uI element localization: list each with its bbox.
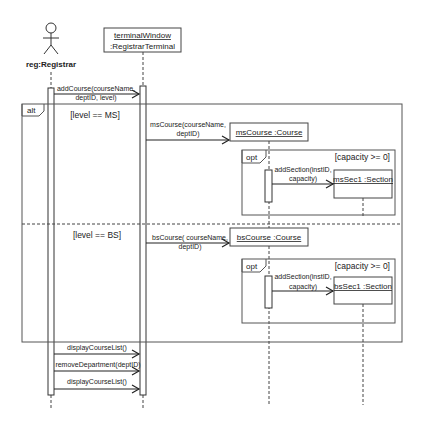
message-display-course-list-2: displayCourseList() xyxy=(54,378,139,393)
svg-text:addSection(instID,: addSection(instID, xyxy=(274,273,331,281)
sequence-diagram: reg:Registrar terminalWindow :RegistrarT… xyxy=(0,0,423,431)
object-class: :RegistrarTerminal xyxy=(110,42,175,51)
guard-capacity: [capacity >= 0] xyxy=(335,261,390,271)
message-bs-add-section: addSection(instID, capacity) xyxy=(272,273,333,295)
svg-text:capacity): capacity) xyxy=(289,283,317,291)
guard-ms: [level == MS] xyxy=(70,110,120,120)
object-bs-course: bsCourse :Course xyxy=(230,228,308,246)
guard-capacity: [capacity >= 0] xyxy=(335,152,390,162)
activation-terminal xyxy=(140,86,146,395)
svg-text:deptID, level): deptID, level) xyxy=(75,94,116,102)
svg-text:deptID): deptID) xyxy=(177,130,200,138)
svg-text:msCourse(courseName,: msCourse(courseName, xyxy=(150,121,226,129)
object-terminal-window: terminalWindow :RegistrarTerminal xyxy=(104,28,181,52)
svg-text:msSec1 :Section: msSec1 :Section xyxy=(333,175,393,184)
object-bs-sec1: bsSec1 :Section xyxy=(334,277,392,304)
object-name: terminalWindow xyxy=(114,31,171,40)
svg-text:capacity): capacity) xyxy=(289,175,317,183)
actor-label: reg:Registrar xyxy=(26,60,76,69)
activation-ms-course xyxy=(265,170,272,202)
object-ms-sec1: msSec1 :Section xyxy=(333,170,393,198)
svg-text:bsSec1 :Section: bsSec1 :Section xyxy=(334,282,392,291)
message-add-course: addCourse(courseName, deptID, level) xyxy=(54,85,139,102)
svg-text:addCourse(courseName,: addCourse(courseName, xyxy=(57,85,135,93)
svg-text:msCourse :Course: msCourse :Course xyxy=(236,128,303,137)
message-ms-course: msCourse(courseName, deptID) xyxy=(146,121,229,144)
svg-text:displayCourseList(): displayCourseList() xyxy=(67,378,127,386)
svg-text:opt: opt xyxy=(246,153,258,162)
object-ms-course: msCourse :Course xyxy=(230,123,308,141)
fragment-operator: alt xyxy=(27,106,36,115)
actor-registrar: reg:Registrar xyxy=(26,23,76,69)
activation-bs-course xyxy=(265,276,272,308)
message-display-course-list-1: displayCourseList() xyxy=(54,344,139,358)
svg-text:deptID): deptID) xyxy=(179,243,202,251)
svg-text:removeDepartment(deptID): removeDepartment(deptID) xyxy=(55,361,140,369)
svg-text:opt: opt xyxy=(246,262,258,271)
message-remove-department: removeDepartment(deptID) xyxy=(54,361,141,375)
svg-text:bsCourse :Course: bsCourse :Course xyxy=(237,233,302,242)
svg-text:displayCourseList(): displayCourseList() xyxy=(67,344,127,352)
svg-text:bsCourse( courseName,: bsCourse( courseName, xyxy=(152,234,228,242)
svg-text:addSection(instID,: addSection(instID, xyxy=(274,166,331,174)
activation-registrar xyxy=(48,88,54,395)
guard-bs: [level == BS] xyxy=(73,230,121,240)
stick-figure-icon xyxy=(43,23,59,54)
message-bs-course: bsCourse( courseName, deptID) xyxy=(146,234,229,251)
message-ms-add-section: addSection(instID, capacity) xyxy=(272,166,333,188)
